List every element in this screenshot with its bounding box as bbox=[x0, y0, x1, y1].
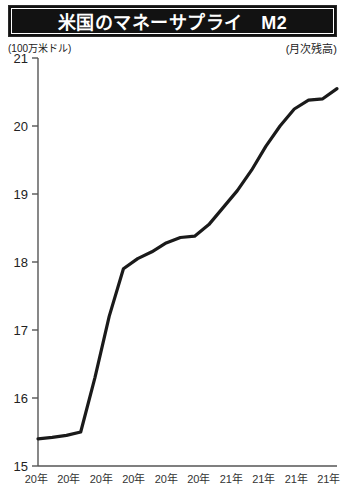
y-axis-tick-label: 20 bbox=[14, 119, 28, 134]
y-axis-tick-label: 21 bbox=[14, 51, 28, 66]
x-axis-tick-label: 21年 bbox=[220, 472, 243, 485]
x-axis-tick-label: 20年 bbox=[155, 472, 178, 485]
x-axis-tick-label: 21年 bbox=[252, 472, 275, 485]
chart-page: 米国のマネーサプライ M2 (100万米ドル) (月次残高) 151617181… bbox=[0, 0, 345, 489]
y-axis-tick-label: 17 bbox=[14, 323, 28, 338]
x-axis-tick-label: 20年 bbox=[90, 472, 113, 485]
y-axis-tick-label: 18 bbox=[14, 255, 28, 270]
page-title: 米国のマネーサプライ M2 bbox=[58, 8, 288, 34]
m2-data-line bbox=[38, 89, 337, 439]
y-axis-tick-label: 15 bbox=[14, 459, 28, 474]
x-axis-tick-label: 20年 bbox=[187, 472, 210, 485]
chart-plot-area: 15161718192021 20年20年20年20年20年20年21年21年2… bbox=[0, 0, 345, 489]
y-axis: 15161718192021 bbox=[14, 51, 38, 474]
x-axis-tick-label: 20年 bbox=[57, 472, 80, 485]
x-axis-tick-label: 20年 bbox=[122, 472, 145, 485]
line-chart-svg: 15161718192021 20年20年20年20年20年20年21年21年2… bbox=[0, 0, 345, 489]
x-axis-tick-labels: 20年20年20年20年20年20年21年21年21年21年 bbox=[25, 472, 341, 485]
y-axis-tick-label: 19 bbox=[14, 187, 28, 202]
x-axis-tick-label: 21年 bbox=[285, 472, 308, 485]
y-axis-tick-label: 16 bbox=[14, 391, 28, 406]
x-axis-tick-label: 21年 bbox=[317, 472, 340, 485]
x-axis-tick-label: 20年 bbox=[25, 472, 48, 485]
